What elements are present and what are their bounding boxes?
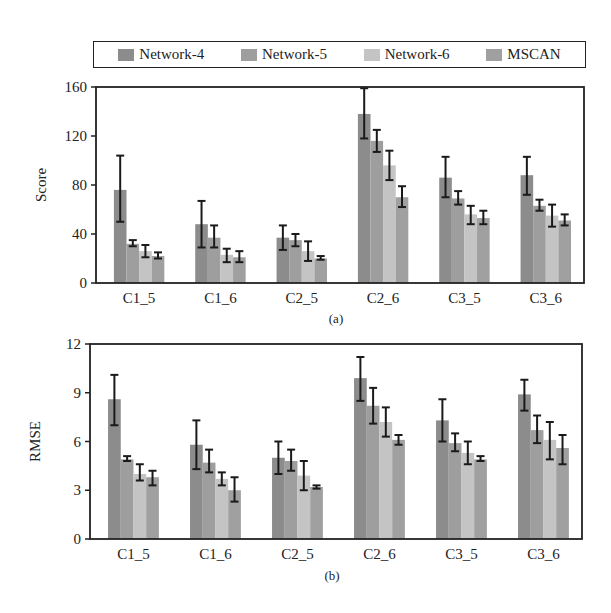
y-axis-label: Score: [33, 168, 49, 202]
bar: [477, 218, 490, 283]
bar: [533, 206, 546, 283]
x-tick-label: C2_6: [367, 290, 400, 306]
bar: [203, 463, 216, 539]
y-tick-label: 0: [74, 531, 82, 547]
y-tick-label: 160: [65, 79, 88, 95]
bar: [310, 487, 323, 539]
plot-frame: [96, 87, 584, 283]
x-tick-label: C3_5: [448, 290, 481, 306]
bar: [392, 440, 405, 539]
x-tick-label: C3_6: [527, 546, 560, 562]
bar: [354, 378, 367, 539]
x-tick-label: C2_6: [363, 546, 396, 562]
bar: [379, 422, 392, 539]
x-tick-label: C2_5: [281, 546, 314, 562]
plot-frame: [90, 344, 582, 539]
bar: [449, 443, 462, 539]
bar: [152, 256, 165, 283]
bar: [367, 406, 380, 539]
x-tick-label: C1_6: [199, 546, 232, 562]
x-tick-label: C1_6: [204, 290, 237, 306]
y-tick-label: 80: [72, 177, 87, 193]
y-tick-label: 40: [72, 226, 87, 242]
bar: [121, 459, 134, 539]
chart-panel-a: C1_5C1_6C2_5C2_6C3_5C3_604080120160Score…: [33, 79, 584, 326]
panel-caption: (a): [329, 311, 343, 326]
bar: [215, 479, 228, 539]
bar: [127, 244, 140, 283]
bar: [452, 198, 465, 283]
x-tick-label: C1_5: [117, 546, 150, 562]
x-tick-label: C1_5: [123, 290, 156, 306]
bar: [133, 474, 146, 539]
chart-panel-b: C1_5C1_6C2_5C2_6C3_5C3_6036912RMSE(b): [27, 336, 582, 583]
bar: [461, 453, 474, 539]
bar: [518, 394, 531, 539]
chart-canvas: C1_5C1_6C2_5C2_6C3_5C3_604080120160Score…: [0, 0, 611, 613]
bar: [531, 430, 544, 539]
y-tick-label: 3: [74, 482, 82, 498]
panel-caption: (b): [324, 568, 339, 583]
bar: [396, 197, 409, 283]
y-tick-label: 0: [80, 275, 88, 291]
y-tick-label: 6: [74, 434, 82, 450]
bar: [371, 141, 384, 283]
y-tick-label: 12: [66, 336, 81, 352]
x-tick-label: C3_5: [445, 546, 478, 562]
bar: [285, 461, 298, 539]
bar: [383, 165, 396, 283]
x-tick-label: C2_5: [286, 290, 319, 306]
y-tick-label: 9: [74, 385, 82, 401]
bar: [474, 459, 487, 539]
bar: [314, 259, 327, 284]
bar: [558, 221, 571, 283]
y-axis-label: RMSE: [27, 421, 43, 462]
bar: [146, 477, 159, 539]
y-tick-label: 120: [65, 128, 88, 144]
x-tick-label: C3_6: [530, 290, 563, 306]
